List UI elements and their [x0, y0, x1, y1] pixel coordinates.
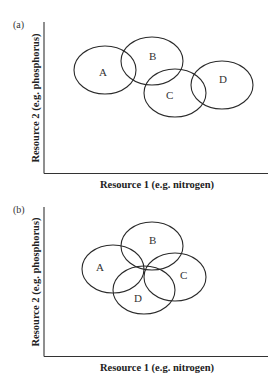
panel-a: (a) Resource 2 (e.g. phosphorus) Resourc… — [13, 19, 268, 191]
panel-a-y-axis-label: Resource 2 (e.g. phosphorus) — [30, 33, 42, 163]
panel-b-niche-b — [121, 222, 183, 270]
panel-a-niche-c-label: C — [166, 89, 173, 101]
panel-b-niche-a-label: A — [96, 261, 104, 273]
panel-b-niche-d-label: D — [134, 292, 142, 304]
panel-a-niche-d-label: D — [219, 73, 227, 85]
panel-a-x-axis-label: Resource 1 (e.g. nitrogen) — [100, 179, 215, 191]
panel-b-y-axis-label: Resource 2 (e.g. phosphorus) — [30, 217, 42, 347]
panel-b-x-axis-label: Resource 1 (e.g. nitrogen) — [100, 362, 215, 374]
panel-a-niche-a-label: A — [99, 66, 107, 78]
niche-overlap-figure: (a) Resource 2 (e.g. phosphorus) Resourc… — [0, 0, 280, 380]
panel-a-niche-d — [191, 61, 253, 109]
panel-b-niche-b-label: B — [149, 234, 156, 246]
panel-a-label: (a) — [13, 19, 24, 31]
panel-b-label: (b) — [13, 204, 25, 216]
panel-a-niche-c — [144, 69, 206, 117]
panel-b-niche-c-label: C — [180, 269, 187, 281]
panel-b: (b) Resource 2 (e.g. phosphorus) Resourc… — [13, 204, 268, 374]
panel-a-niche-b-label: B — [149, 50, 156, 62]
